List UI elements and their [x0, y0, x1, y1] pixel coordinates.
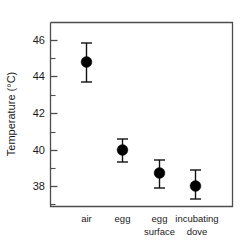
data-point-egg-surface	[154, 160, 165, 188]
x-tick-label-egg-surface-line1: egg	[152, 213, 168, 224]
y-axis-major-ticks	[51, 41, 58, 187]
y-axis-tick-labels: 46 44 42 40 38	[33, 34, 45, 192]
marker-egg-surface	[154, 168, 165, 179]
x-tick-label-air: air	[81, 213, 92, 224]
y-tick-label-44: 44	[33, 70, 45, 82]
x-tick-label-incubating-dove-line2: dove	[187, 226, 208, 237]
y-axis-title: Temperature (°C)	[5, 72, 17, 156]
data-point-air	[81, 43, 92, 82]
plot-frame	[51, 23, 233, 207]
y-axis-minor-ticks	[51, 59, 56, 205]
y-tick-label-38: 38	[33, 180, 45, 192]
x-tick-label-egg: egg	[115, 213, 131, 224]
y-tick-label-42: 42	[33, 107, 45, 119]
y-tick-label-40: 40	[33, 144, 45, 156]
y-tick-label-46: 46	[33, 34, 45, 46]
data-point-incubating-dove	[190, 170, 201, 199]
marker-egg	[117, 145, 128, 156]
data-series	[81, 43, 201, 199]
marker-incubating-dove	[190, 181, 201, 192]
x-axis-tick-labels: air egg egg surface incubating dove	[81, 213, 218, 237]
x-tick-label-incubating-dove-line1: incubating	[175, 213, 218, 224]
error-bar-chart: 46 44 42 40 38 Temperature (°C)	[0, 0, 243, 252]
data-point-egg	[117, 139, 128, 162]
marker-air	[81, 57, 92, 68]
x-tick-label-egg-surface-line2: surface	[144, 226, 175, 237]
chart-figure: 46 44 42 40 38 Temperature (°C)	[0, 0, 243, 252]
